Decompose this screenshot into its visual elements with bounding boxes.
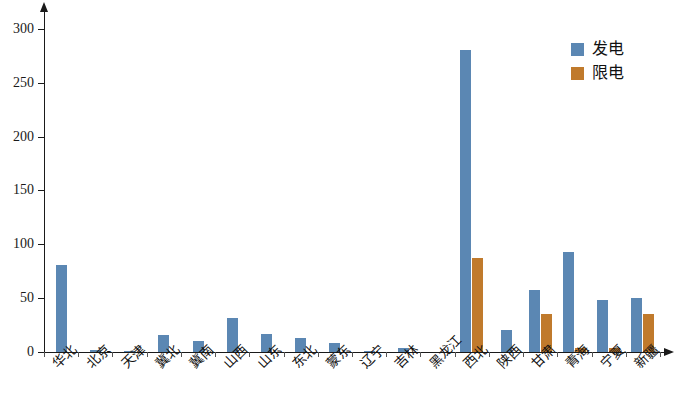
x-category-label-天津: 天津 xyxy=(116,340,149,373)
x-category-label-吉林: 吉林 xyxy=(389,340,422,373)
y-tick-label: 0 xyxy=(0,345,34,359)
x-category-label-北京: 北京 xyxy=(81,340,114,373)
legend-swatch-blue-icon xyxy=(571,43,584,56)
x-tick-mark xyxy=(44,352,45,357)
y-tick-label: 150 xyxy=(0,183,34,197)
y-tick-label: 250 xyxy=(0,76,34,90)
x-category-label-陕西: 陕西 xyxy=(492,340,525,373)
y-tick-mark xyxy=(38,137,44,138)
y-tick-mark xyxy=(38,29,44,30)
y-tick-label: 50 xyxy=(0,291,34,305)
x-category-label-冀北: 冀北 xyxy=(150,340,183,373)
chart-legend: 发电 限电 xyxy=(571,41,624,81)
bar-chart: 050100150200250300 华北北京天津冀北冀南山西山东东北蒙东辽宁吉… xyxy=(0,0,677,404)
y-tick-mark xyxy=(38,298,44,299)
legend-label-fadian: 发电 xyxy=(592,41,624,57)
bar-发电-甘肃[interactable] xyxy=(529,290,540,352)
x-axis-arrow-icon xyxy=(664,348,674,356)
bar-发电-宁夏[interactable] xyxy=(597,300,608,352)
y-axis-arrow-icon xyxy=(40,2,48,12)
x-category-label-东北: 东北 xyxy=(287,340,320,373)
bar-限电-西北[interactable] xyxy=(472,258,483,352)
y-tick-label: 300 xyxy=(0,22,34,36)
y-tick-label: 100 xyxy=(0,237,34,251)
x-category-label-蒙东: 蒙东 xyxy=(321,340,354,373)
y-tick-mark xyxy=(38,83,44,84)
legend-label-xiandian: 限电 xyxy=(592,65,624,81)
legend-swatch-orange-icon xyxy=(571,67,584,80)
legend-item-fadian[interactable]: 发电 xyxy=(571,41,624,57)
x-category-label-冀南: 冀南 xyxy=(184,340,217,373)
y-axis-line xyxy=(44,10,45,353)
bar-发电-西北[interactable] xyxy=(460,50,471,352)
y-tick-label: 200 xyxy=(0,130,34,144)
legend-item-xiandian[interactable]: 限电 xyxy=(571,65,624,81)
y-tick-mark xyxy=(38,244,44,245)
x-category-label-华北: 华北 xyxy=(47,340,80,373)
x-category-label-辽宁: 辽宁 xyxy=(355,340,388,373)
x-category-label-山西: 山西 xyxy=(218,340,251,373)
bar-发电-新疆[interactable] xyxy=(631,298,642,352)
x-category-label-黑龙江: 黑龙江 xyxy=(424,330,465,371)
y-tick-mark xyxy=(38,190,44,191)
bar-发电-青海[interactable] xyxy=(563,252,574,352)
x-category-label-山东: 山东 xyxy=(252,340,285,373)
